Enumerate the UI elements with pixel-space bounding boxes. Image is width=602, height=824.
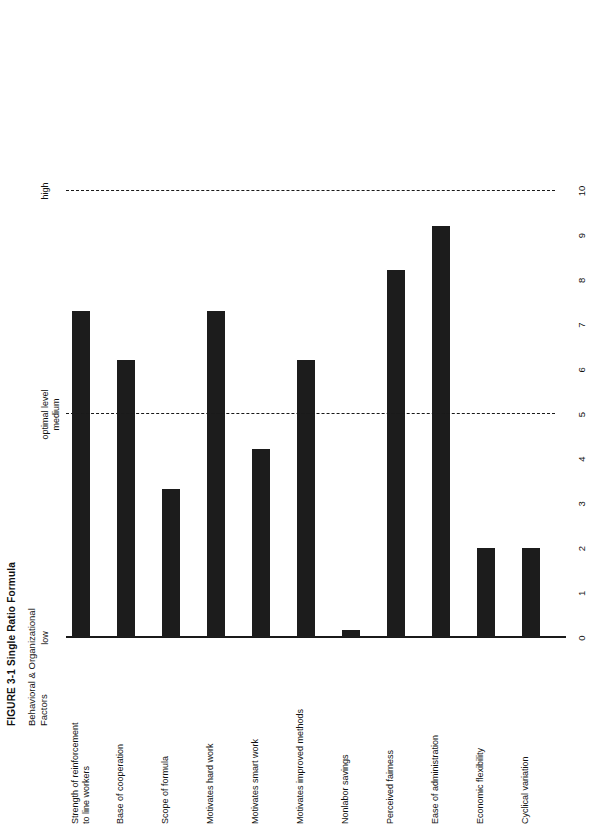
bar[interactable]: [342, 630, 360, 637]
bar[interactable]: [72, 311, 90, 637]
axis-tick: 1: [576, 581, 587, 605]
reference-line-low: [66, 637, 555, 638]
reference-line-high: [66, 190, 555, 191]
bar[interactable]: [387, 270, 405, 637]
plot-area: Strength of reinforcement to line worker…: [66, 26, 566, 638]
category-label: Motivates hard work: [205, 644, 216, 824]
axis-tick: 9: [576, 224, 587, 248]
axis-tick: 4: [576, 447, 587, 471]
axis-tick: 3: [576, 492, 587, 516]
bar[interactable]: [477, 548, 495, 637]
bar[interactable]: [252, 449, 270, 637]
axis-tick: 0: [576, 626, 587, 650]
axis-tick: 10: [576, 179, 587, 203]
category-label: Economic flexibility: [475, 644, 486, 824]
category-label: Motivates improved methods: [295, 644, 306, 824]
axis-tick: 6: [576, 358, 587, 382]
category-label: Perceived fairness: [385, 644, 396, 824]
reference-label-high: high: [40, 146, 51, 236]
category-label: Scope of formula: [160, 644, 171, 824]
category-label: Ease of administration: [430, 644, 441, 824]
reference-label-low: low: [40, 593, 51, 683]
bar[interactable]: [207, 311, 225, 637]
category-label: Motivates smart work: [250, 644, 261, 824]
category-label: Base of cooperation: [115, 644, 126, 824]
category-label: Cyclical variation: [520, 644, 531, 824]
bar[interactable]: [297, 360, 315, 637]
bar[interactable]: [522, 548, 540, 637]
reference-line-optimal: [66, 414, 555, 415]
category-label: Strength of reinforcement to line worker…: [70, 644, 92, 824]
category-label: Nonlabor savings: [340, 644, 351, 824]
axis-tick: 7: [576, 313, 587, 337]
bar[interactable]: [117, 360, 135, 637]
axis-tick: 8: [576, 268, 587, 292]
axis-tick: 5: [576, 403, 587, 427]
bar[interactable]: [162, 490, 180, 638]
axis-tick: 2: [576, 537, 587, 561]
reference-label-optimal: optimal level medium: [40, 370, 62, 460]
bar[interactable]: [432, 226, 450, 637]
figure-title: FIGURE 3-1 Single Ratio Formula: [6, 562, 17, 726]
